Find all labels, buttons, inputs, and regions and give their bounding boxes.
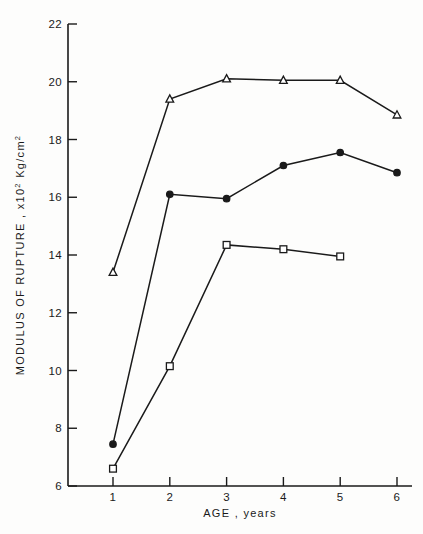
series-line-open-square xyxy=(113,245,340,469)
x-axis-ticks xyxy=(113,477,397,486)
data-point-marker xyxy=(337,253,344,260)
svg-text:MODULUS OF RUPTURE , x102 Kg/c: MODULUS OF RUPTURE , x102 Kg/cm2 xyxy=(13,135,26,376)
series-open-square xyxy=(110,241,344,472)
y-axis-title-units-exp: 2 xyxy=(13,135,22,140)
data-point-marker xyxy=(394,170,400,176)
data-point-marker xyxy=(223,195,229,201)
y-axis-tick-labels: 6810121416182022 xyxy=(48,18,62,492)
chart-figure: 6810121416182022 123456 MODULUS OF RUPTU… xyxy=(0,0,423,534)
y-tick-label: 8 xyxy=(55,422,62,434)
data-point-marker xyxy=(167,191,173,197)
data-point-marker xyxy=(166,363,173,370)
y-tick-label: 16 xyxy=(48,191,62,203)
y-tick-label: 10 xyxy=(48,365,62,377)
data-point-marker xyxy=(393,111,401,118)
y-tick-label: 20 xyxy=(48,76,62,88)
x-tick-label: 2 xyxy=(166,491,173,503)
series-open-triangle xyxy=(109,75,401,276)
y-tick-label: 18 xyxy=(48,134,62,146)
x-axis-group: 123456 xyxy=(68,477,412,503)
data-point-marker xyxy=(280,162,286,168)
y-tick-label: 12 xyxy=(48,307,62,319)
data-point-marker xyxy=(223,241,230,248)
x-tick-label: 1 xyxy=(110,491,117,503)
x-tick-label: 3 xyxy=(223,491,230,503)
x-tick-label: 4 xyxy=(280,491,287,503)
y-tick-label: 14 xyxy=(48,249,62,261)
data-point-marker xyxy=(280,246,287,253)
data-series-layer xyxy=(109,75,401,472)
x-axis-tick-labels: 123456 xyxy=(110,491,401,503)
y-axis-title-units: Kg/cm xyxy=(14,140,26,182)
series-line-open-triangle xyxy=(113,79,397,272)
x-tick-label: 6 xyxy=(394,491,401,503)
x-axis-title: AGE , years xyxy=(203,507,277,519)
data-point-marker xyxy=(109,268,117,275)
y-tick-label: 22 xyxy=(48,18,62,30)
y-axis-title-text: MODULUS OF RUPTURE , x10 xyxy=(14,188,26,376)
y-axis-title: MODULUS OF RUPTURE , x102 Kg/cm2 xyxy=(13,135,26,376)
data-point-marker xyxy=(337,149,343,155)
x-tick-label: 5 xyxy=(337,491,344,503)
y-axis-ticks xyxy=(68,24,77,486)
series-filled-circle xyxy=(110,149,400,447)
data-point-marker xyxy=(110,441,116,447)
y-axis-group: 6810121416182022 xyxy=(48,18,77,492)
y-tick-label: 6 xyxy=(55,480,62,492)
line-chart-canvas: 6810121416182022 123456 MODULUS OF RUPTU… xyxy=(0,0,423,534)
series-line-filled-circle xyxy=(113,152,397,444)
data-point-marker xyxy=(110,465,117,472)
